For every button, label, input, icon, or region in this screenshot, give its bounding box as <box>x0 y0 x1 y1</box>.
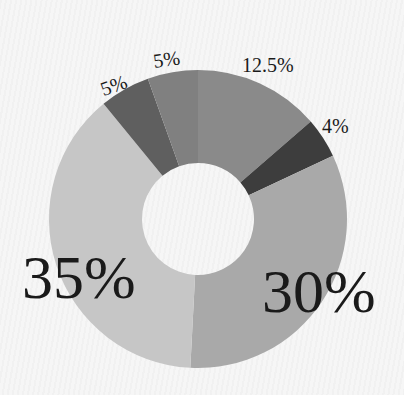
label-35-percent: 35% <box>22 243 136 311</box>
label-4-percent: 4% <box>322 115 349 137</box>
donut-svg: 12.5% 4% 30% 35% 5% 5% <box>0 0 404 395</box>
donut-chart: 12.5% 4% 30% 35% 5% 5% <box>0 0 404 395</box>
label-12-5-percent: 12.5% <box>242 54 294 76</box>
label-5-percent-top: 5% <box>152 46 181 71</box>
label-30-percent: 30% <box>262 257 376 325</box>
